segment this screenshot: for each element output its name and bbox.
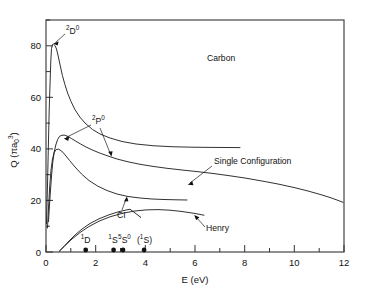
y-tick-label-40: 40 bbox=[30, 143, 41, 154]
label-henry: Henry bbox=[206, 223, 230, 233]
threshold-label-paren-close: ) bbox=[149, 235, 152, 245]
chart-figure: 0 2 4 6 8 10 12 E (eV) 0 20 40 60 80 Q (… bbox=[0, 0, 369, 293]
threshold-label-5s0-sup2: 0 bbox=[127, 233, 131, 240]
threshold-label-1s-paren: (1S) bbox=[137, 233, 152, 245]
x-tick-label-12: 12 bbox=[339, 257, 350, 268]
label-2p0-sup-right: 0 bbox=[101, 114, 105, 121]
threshold-marker-5s0 bbox=[121, 248, 126, 253]
y-axis-label-close: ) bbox=[8, 132, 19, 135]
y-tick-label-80: 80 bbox=[30, 40, 41, 51]
x-tick-label-0: 0 bbox=[43, 257, 48, 268]
label-ci: CI bbox=[117, 210, 126, 220]
x-axis-label: E (eV) bbox=[182, 274, 209, 285]
x-tick-label-4: 4 bbox=[143, 257, 148, 268]
threshold-label-1d-base: D bbox=[84, 235, 90, 245]
y-tick-label-20: 20 bbox=[30, 195, 41, 206]
y-axis-label-q: Q bbox=[8, 160, 19, 167]
carbon-title: Carbon bbox=[207, 53, 235, 63]
y-tick-label-0: 0 bbox=[36, 247, 41, 258]
x-tick-label-8: 8 bbox=[242, 257, 247, 268]
threshold-marker-1s-paren bbox=[142, 248, 147, 253]
threshold-marker-1s bbox=[111, 248, 116, 253]
x-tick-label-2: 2 bbox=[93, 257, 98, 268]
threshold-marker-1d bbox=[83, 248, 88, 253]
label-2d0-sup-right: 0 bbox=[76, 24, 80, 31]
label-single-configuration: Single Configuration bbox=[214, 156, 292, 166]
photoionization-cross-section-chart: 0 2 4 6 8 10 12 E (eV) 0 20 40 60 80 Q (… bbox=[0, 0, 369, 293]
x-tick-label-6: 6 bbox=[192, 257, 197, 268]
threshold-label-1s-base: S bbox=[112, 235, 118, 245]
y-tick-label-60: 60 bbox=[30, 92, 41, 103]
y-axis-label-sub: 0 bbox=[13, 139, 20, 143]
x-tick-label-10: 10 bbox=[289, 257, 300, 268]
